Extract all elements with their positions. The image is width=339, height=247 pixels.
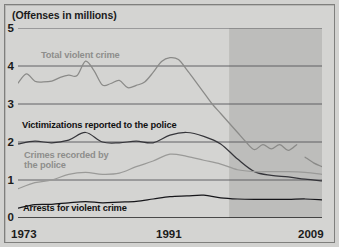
y-tick-label-4: 4 (0, 60, 14, 72)
y-tick-label-0: 0 (0, 211, 14, 223)
series-label-crimes-recorded-line2: the police (24, 160, 66, 171)
x-tick-label-end: 2009 (298, 228, 324, 240)
y-tick-label-3: 3 (0, 98, 14, 110)
chart-axis-title: (Offenses in millions) (12, 9, 117, 21)
shaded-forecast-band (229, 28, 322, 218)
x-tick-label-start: 1973 (11, 228, 37, 240)
series-label-total-violent-crime: Total violent crime (41, 50, 120, 61)
series-label-arrests: Arrests for violent crime (23, 203, 127, 214)
series-label-victimizations: Victimizations reported to the police (22, 120, 176, 131)
y-tick-label-2: 2 (0, 136, 14, 148)
y-tick-label-1: 1 (0, 174, 14, 186)
x-tick-label-mid: 1991 (156, 228, 182, 240)
chart-figure: (Offenses in millions) 5 4 3 2 1 0 1973 … (0, 0, 339, 247)
y-tick-label-5: 5 (0, 22, 14, 34)
